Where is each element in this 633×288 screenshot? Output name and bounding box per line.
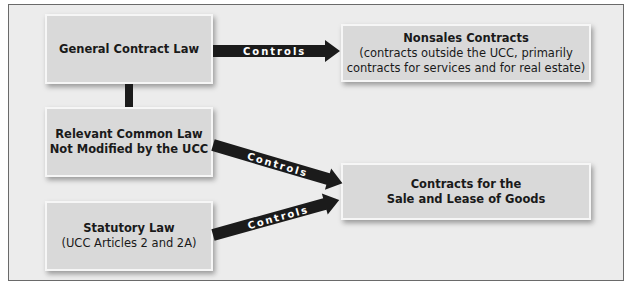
arrow-general-to-nonsales: Controls bbox=[213, 40, 340, 62]
edge-label: Controls bbox=[243, 46, 306, 57]
arrow-common-to-goods: Controls bbox=[210, 134, 346, 193]
edge-label: Controls bbox=[246, 204, 310, 232]
arrow-statutory-to-goods: Controls bbox=[210, 189, 342, 245]
arrows-layer: Controls Controls Controls bbox=[0, 0, 633, 288]
edge-label: Controls bbox=[246, 150, 310, 179]
